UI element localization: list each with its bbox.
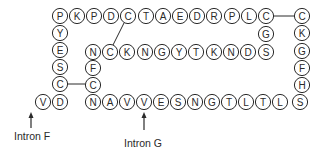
residue-i9: N <box>223 44 238 59</box>
residue-l6: V <box>35 94 50 109</box>
residue-t2: K <box>69 8 84 23</box>
residue-l1: Y <box>52 25 67 40</box>
residue-i2: C <box>102 44 117 59</box>
residue-b5: E <box>153 94 168 109</box>
residue-letter: T <box>193 47 199 58</box>
residue-i1: N <box>85 44 100 59</box>
residue-letter: L <box>246 11 252 22</box>
residue-letter: G <box>262 29 270 40</box>
residue-b6: S <box>170 94 185 109</box>
residue-b1: N <box>85 94 100 109</box>
residue-letter: K <box>299 28 306 39</box>
residue-b2: A <box>102 94 117 109</box>
residue-letter: G <box>158 47 166 58</box>
residue-c1: F <box>85 60 100 75</box>
residue-letter: V <box>124 97 131 108</box>
residue-i5: G <box>154 44 169 59</box>
residue-letter: K <box>211 47 218 58</box>
residue-t12: L <box>241 8 256 23</box>
residue-l3: S <box>52 59 67 74</box>
residue-m1: G <box>258 26 273 41</box>
arrowhead-icon <box>29 112 34 118</box>
residue-letter: L <box>277 97 283 108</box>
residue-letter: P <box>229 11 236 22</box>
residue-letter: E <box>177 11 184 22</box>
residue-l2: E <box>52 42 67 57</box>
residue-l4: C <box>52 76 67 91</box>
residue-letter: S <box>175 97 182 108</box>
residue-letter: S <box>57 62 64 73</box>
residue-b9: T <box>221 94 236 109</box>
residue-l5: D <box>52 94 67 109</box>
residue-letter: C <box>56 79 63 90</box>
residue-letter: Y <box>57 28 64 39</box>
residue-letter: C <box>298 11 305 22</box>
residue-letter: K <box>74 11 81 22</box>
residue-c2: C <box>85 77 100 92</box>
residue-letter: N <box>191 97 198 108</box>
residue-t13: C <box>258 8 273 23</box>
residue-letter: G <box>298 46 306 57</box>
residue-letter: N <box>227 47 234 58</box>
residue-letter: D <box>193 11 200 22</box>
intron-f-label: Intron F <box>14 130 50 142</box>
residue-letter: C <box>89 80 96 91</box>
residue-r3: G <box>294 43 309 58</box>
residue-i7: T <box>188 44 203 59</box>
residue-letter: N <box>89 47 96 58</box>
residue-t10: R <box>206 8 221 23</box>
residue-t6: T <box>138 8 153 23</box>
residue-b3: V <box>119 94 134 109</box>
disulfide-bond <box>113 23 124 45</box>
residue-letter: V <box>141 97 148 108</box>
residue-letter: A <box>160 11 167 22</box>
residue-letter: N <box>89 97 96 108</box>
residue-t7: A <box>155 8 170 23</box>
residue-letter: S <box>297 97 304 108</box>
residue-letter: L <box>243 97 249 108</box>
residue-letter: N <box>141 47 148 58</box>
residue-t4: D <box>103 8 118 23</box>
residue-t5: C <box>120 8 135 23</box>
residue-letter: K <box>124 47 131 58</box>
residue-letter: T <box>260 97 266 108</box>
residue-letter: C <box>124 11 131 22</box>
residue-letter: G <box>208 97 216 108</box>
residue-b11: T <box>255 94 270 109</box>
residue-letter: T <box>143 11 149 22</box>
residue-b8: G <box>204 94 219 109</box>
residue-r5: H <box>294 77 309 92</box>
residue-i6: Y <box>171 44 186 59</box>
residue-t8: E <box>172 8 187 23</box>
intron-arrows <box>29 112 147 130</box>
residue-b7: N <box>187 94 202 109</box>
residue-letter: C <box>106 47 113 58</box>
residue-letter: D <box>107 11 114 22</box>
residue-b10: L <box>238 94 253 109</box>
residue-r2: K <box>294 25 309 40</box>
intron-g-label: Intron G <box>124 137 162 149</box>
residue-chain: PKPDCTAEDRPLCCKGFHSYESCDVGNCKNGYTKNDSFCN… <box>35 8 309 109</box>
residue-r4: F <box>294 60 309 75</box>
residue-letter: D <box>244 47 251 58</box>
residue-letter: F <box>90 63 96 74</box>
residue-i10: D <box>240 44 255 59</box>
residue-letter: Y <box>176 47 183 58</box>
residue-t9: D <box>189 8 204 23</box>
residue-t11: P <box>224 8 239 23</box>
residue-letter: C <box>262 11 269 22</box>
residue-i8: K <box>206 44 221 59</box>
residue-letter: P <box>91 11 98 22</box>
arrowhead-icon <box>142 112 147 118</box>
residue-i11: S <box>258 44 273 59</box>
residue-letter: V <box>40 97 47 108</box>
residue-letter: T <box>226 97 232 108</box>
residue-r6: S <box>292 94 307 109</box>
residue-b4: V <box>136 94 151 109</box>
residue-letter: D <box>56 97 63 108</box>
residue-b12: L <box>272 94 287 109</box>
residue-t3: P <box>86 8 101 23</box>
residue-letter: H <box>298 80 305 91</box>
residue-letter: S <box>263 47 270 58</box>
residue-r1: C <box>294 8 309 23</box>
